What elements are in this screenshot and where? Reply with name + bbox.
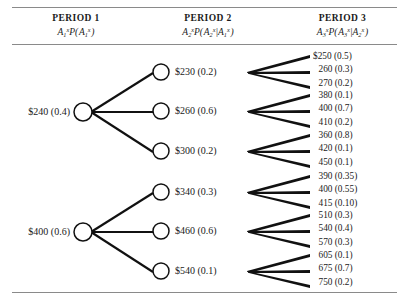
- label-group-period3-4: 390 (0.35) 400 (0.55) 415 (0.10): [313, 170, 357, 210]
- fan-from-460: [247, 214, 310, 248]
- branch-300-to-450: [247, 151, 310, 168]
- fan-from-540: [247, 254, 310, 288]
- label-period3-270: 270 (0.2): [313, 77, 353, 90]
- branch-540-to-605: [247, 254, 310, 273]
- fan-from-260: [247, 94, 310, 128]
- fan-from-230: [247, 55, 310, 89]
- label-period2-230: $230 (0.2): [175, 67, 217, 77]
- branch-300-to-360: [247, 134, 310, 153]
- branch-400-to-540: [91, 232, 153, 272]
- branch-340-to-415: [247, 192, 310, 209]
- branches-to-period-3: [247, 55, 310, 288]
- branches-from-node-400: [91, 193, 153, 272]
- branch-340-to-390: [247, 175, 310, 194]
- label-period2-340: $340 (0.3): [175, 187, 217, 197]
- label-period3-675: 675 (0.7): [313, 262, 353, 275]
- label-group-period3-5: 510 (0.3) 540 (0.4) 570 (0.3): [313, 209, 353, 249]
- label-period2-540: $540 (0.1): [175, 266, 217, 276]
- fan-from-300: [247, 134, 310, 168]
- branch-460-to-570: [247, 231, 310, 248]
- label-period3-410: 410 (0.2): [313, 116, 353, 129]
- label-period3-510: 510 (0.3): [313, 209, 353, 222]
- label-period3-400a: 400 (0.7): [313, 102, 353, 115]
- branch-240-to-230: [91, 73, 153, 112]
- label-group-period3-1: $250 (0.5) 260 (0.3) 270 (0.2): [313, 50, 353, 90]
- label-period3-390: 390 (0.35): [313, 170, 357, 183]
- label-period3-415: 415 (0.10): [313, 197, 357, 210]
- label-group-period3-2: 380 (0.1) 400 (0.7) 410 (0.2): [313, 89, 353, 129]
- node-period1-400[interactable]: [74, 223, 92, 241]
- label-period2-300: $300 (0.2): [175, 146, 217, 156]
- label-period1-400: $400 (0.6): [8, 227, 70, 237]
- label-period3-260: 260 (0.3): [313, 63, 353, 76]
- branch-240-to-300: [91, 112, 153, 152]
- label-period3-570: 570 (0.3): [313, 236, 353, 249]
- label-period3-450: 450 (0.1): [313, 156, 353, 169]
- node-period1-240[interactable]: [74, 103, 92, 121]
- branch-540-to-750: [247, 271, 310, 288]
- node-period2-300[interactable]: [153, 143, 169, 159]
- label-period3-750: 750 (0.2): [313, 276, 353, 289]
- label-group-period3-3: 360 (0.8) 420 (0.1) 450 (0.1): [313, 129, 353, 169]
- branch-230-to-270: [247, 72, 310, 89]
- node-period2-230[interactable]: [153, 64, 169, 80]
- branch-400-to-340: [91, 193, 153, 232]
- decision-tree-figure: PERIOD 1 A1xP( A1x ) PERIOD 2 A2xP( A2x|…: [0, 0, 409, 308]
- node-period2-260[interactable]: [153, 103, 169, 119]
- branch-260-to-410: [247, 111, 310, 128]
- label-group-period3-6: 605 (0.1) 675 (0.7) 750 (0.2): [313, 249, 353, 289]
- node-period2-340[interactable]: [153, 184, 169, 200]
- fan-from-340: [247, 175, 310, 209]
- label-period3-360: 360 (0.8): [313, 129, 353, 142]
- label-period3-380: 380 (0.1): [313, 89, 353, 102]
- label-period1-240: $240 (0.4): [8, 107, 70, 117]
- branch-460-to-510: [247, 214, 310, 233]
- node-period2-460[interactable]: [153, 223, 169, 239]
- label-period3-605: 605 (0.1): [313, 249, 353, 262]
- label-period2-460: $460 (0.6): [175, 226, 217, 236]
- label-period3-420: 420 (0.1): [313, 142, 353, 155]
- label-period3-250: $250 (0.5): [313, 50, 353, 63]
- label-period2-260: $260 (0.6): [175, 106, 217, 116]
- label-period3-400b: 400 (0.55): [313, 183, 357, 196]
- branches-from-node-240: [91, 73, 153, 152]
- node-period2-540[interactable]: [153, 263, 169, 279]
- label-period3-540: 540 (0.4): [313, 222, 353, 235]
